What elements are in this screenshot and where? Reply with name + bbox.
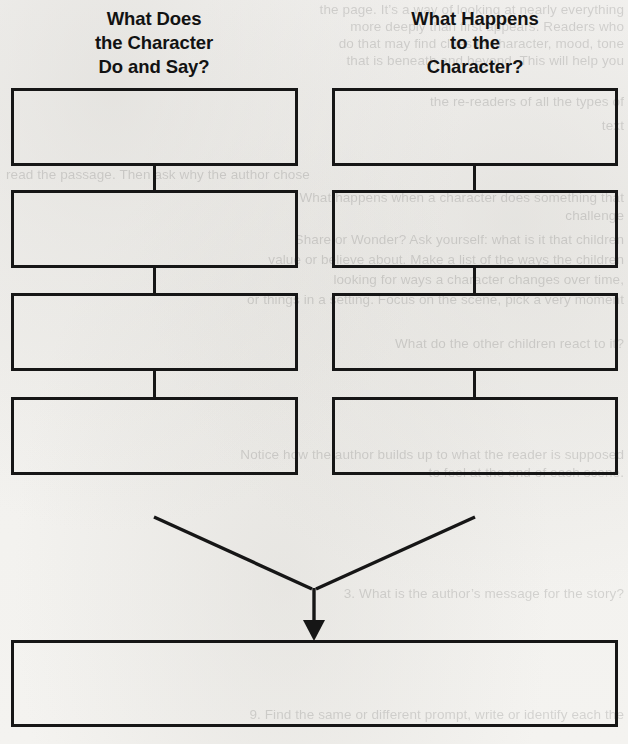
left-connector-1-to-2 — [153, 163, 156, 193]
left-column-box-3[interactable] — [11, 293, 298, 371]
right-column-box-4[interactable] — [332, 397, 618, 475]
worksheet-page: the page. It’s a way of looking at nearl… — [0, 0, 628, 744]
right-connector-3-to-4 — [473, 368, 476, 400]
diagonal-line-left — [154, 517, 312, 589]
left-column-box-2[interactable] — [11, 190, 298, 268]
left-connector-2-to-3 — [153, 265, 156, 296]
heading-right-line-1: What Happens — [332, 7, 618, 31]
left-column-box-1[interactable] — [11, 88, 298, 166]
heading-left-line-1: What Does — [10, 7, 298, 31]
heading-right-line-2: to the — [332, 31, 618, 55]
ghost-line: 3. What is the author’s message for the … — [344, 586, 624, 601]
heading-right-line-3: Character? — [332, 55, 618, 79]
left-column-box-4[interactable] — [11, 397, 298, 475]
conclusion-box[interactable] — [11, 640, 618, 727]
right-column-box-1[interactable] — [332, 88, 618, 166]
diagonal-line-right — [316, 517, 475, 589]
heading-left-line-2: the Character — [10, 31, 298, 55]
heading-what-does-character-do-and-say: What Does the Character Do and Say? — [10, 7, 298, 79]
column-headings: What Does the Character Do and Say? What… — [0, 0, 628, 88]
heading-what-happens-to-character: What Happens to the Character? — [332, 7, 618, 79]
left-connector-3-to-4 — [153, 368, 156, 400]
right-connector-2-to-3 — [473, 265, 476, 296]
right-connector-1-to-2 — [473, 163, 476, 193]
ghost-line: read the passage. Then ask why the autho… — [6, 167, 310, 182]
right-column-box-3[interactable] — [332, 293, 618, 371]
arrow-head-icon — [303, 620, 325, 641]
right-column-box-2[interactable] — [332, 190, 618, 268]
ghost-line: looking for ways a character changes ove… — [333, 272, 624, 287]
heading-left-line-3: Do and Say? — [10, 55, 298, 79]
